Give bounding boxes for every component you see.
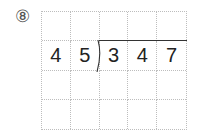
answer-cell[interactable] (128, 12, 157, 41)
work-cell[interactable] (71, 100, 100, 129)
work-cell[interactable] (42, 71, 71, 100)
work-cell[interactable] (128, 100, 157, 129)
work-cell[interactable] (100, 71, 129, 100)
answer-cell[interactable] (100, 12, 129, 41)
answer-cell[interactable] (71, 12, 100, 41)
problem-number: ⑧ (13, 8, 31, 26)
dividend-digit: 7 (157, 41, 186, 70)
long-division-grid: 4 5 3 4 7 (41, 11, 187, 130)
work-cell[interactable] (157, 71, 186, 100)
work-cell[interactable] (42, 100, 71, 129)
divisor-digit: 4 (42, 41, 71, 70)
answer-cell[interactable] (42, 12, 71, 41)
division-bracket-icon (96, 40, 102, 72)
dividend-digit: 4 (128, 41, 157, 70)
work-cell[interactable] (157, 100, 186, 129)
dividend-digit: 3 (100, 41, 129, 70)
work-cell[interactable] (71, 71, 100, 100)
division-vinculum (99, 40, 187, 41)
work-cell[interactable] (128, 71, 157, 100)
answer-cell[interactable] (157, 12, 186, 41)
work-cell[interactable] (100, 100, 129, 129)
